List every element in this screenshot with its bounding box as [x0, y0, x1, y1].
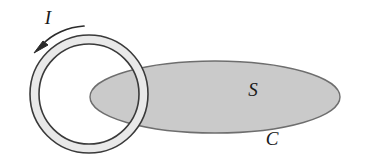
surface-label: S	[248, 79, 258, 100]
curve-label: C	[266, 128, 279, 149]
physics-diagram-figure: I S C	[0, 0, 367, 167]
diagram-canvas: I S C	[0, 0, 367, 167]
